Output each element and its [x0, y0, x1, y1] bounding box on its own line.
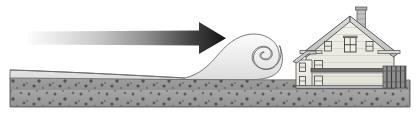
left-wing-window-lower [300, 77, 306, 86]
upper-window-right [366, 42, 373, 52]
arrow-shape [28, 22, 226, 54]
direction-of-wave-travel-arrow [28, 22, 226, 54]
left-wing-window-upper [300, 63, 306, 72]
diagram-canvas [0, 0, 417, 119]
gable-window [343, 36, 357, 52]
porch-roof [311, 69, 387, 74]
coastal-house [293, 7, 406, 89]
side-fence [383, 66, 406, 88]
upper-window-left [325, 42, 332, 52]
ground-window-left [315, 61, 323, 70]
eave-right [378, 51, 400, 54]
tsunami-diagram [0, 0, 417, 119]
ground-window-right [315, 76, 323, 86]
house-foundation [296, 86, 394, 89]
